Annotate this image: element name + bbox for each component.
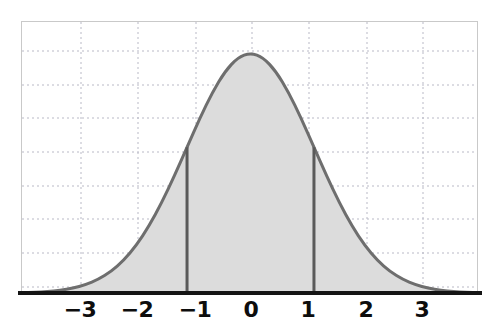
x-tick-label-5: 2 [359,296,374,324]
plot-area [21,21,478,292]
x-tick-label-4: 1 [301,296,316,324]
bell-curve-chart [22,22,478,292]
shaded-area-under-curve [22,54,478,292]
x-tick-label-1: −2 [121,296,154,324]
x-axis-tick-labels: −3−2−10123 [0,296,500,328]
normal-distribution-figure: −3−2−10123 [0,0,500,333]
x-tick-label-0: −3 [64,296,97,324]
x-tick-label-3: 0 [244,296,259,324]
x-tick-label-6: 3 [415,296,430,324]
x-axis-line [18,291,482,295]
x-tick-label-2: −1 [179,296,212,324]
